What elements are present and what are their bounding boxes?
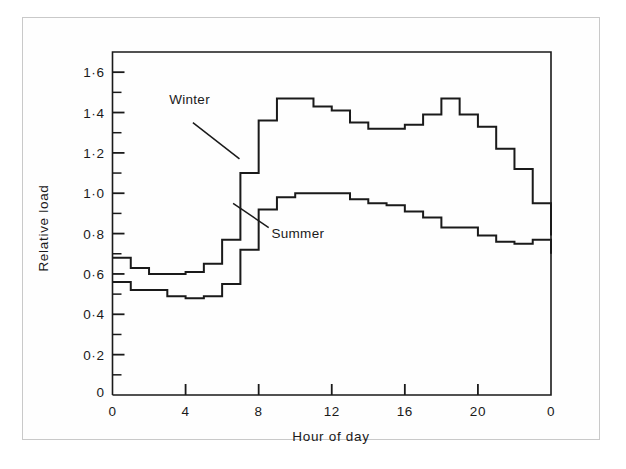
winter-series-label: Winter — [169, 92, 210, 107]
x-tick-label-3: 12 — [324, 404, 340, 419]
x-axis-major-ticks — [186, 384, 478, 395]
x-tick-label-5: 20 — [470, 404, 486, 419]
summer-leader-line — [233, 203, 269, 227]
annotation-leaders — [193, 123, 269, 228]
figure-page: 00·20·40·60·81·01·21·41·6 0481216200 Win… — [0, 0, 626, 469]
summer-series-label: Summer — [271, 226, 324, 241]
y-axis-title: Relative load — [36, 184, 51, 271]
summer-step-line — [113, 193, 552, 298]
y-tick-label-2: 0·4 — [83, 307, 104, 322]
y-tick-label-7: 1·4 — [83, 106, 104, 121]
winter-step-line — [113, 98, 552, 274]
x-tick-label-4: 16 — [397, 404, 413, 419]
y-tick-label-4: 0·8 — [83, 227, 104, 242]
x-tick-label-2: 8 — [255, 404, 263, 419]
y-tick-label-5: 1·0 — [83, 186, 104, 201]
x-tick-label-1: 4 — [182, 404, 190, 419]
x-tick-label-0: 0 — [108, 404, 116, 419]
y-tick-label-1: 0·2 — [83, 348, 104, 363]
x-axis-tick-labels: 0481216200 — [108, 404, 555, 419]
y-tick-label-6: 1·2 — [83, 146, 104, 161]
y-axis-tick-labels: 00·20·40·60·81·01·21·41·6 — [83, 65, 104, 400]
x-tick-label-6: 0 — [547, 404, 555, 419]
y-tick-label-8: 1·6 — [83, 65, 104, 80]
y-tick-label-0: 0 — [96, 385, 104, 400]
x-axis-title: Hour of day — [292, 429, 370, 444]
load-profile-chart: 00·20·40·60·81·01·21·41·6 0481216200 Win… — [0, 0, 626, 469]
y-tick-label-3: 0·6 — [83, 267, 104, 282]
series-group — [113, 98, 552, 298]
winter-leader-line — [193, 123, 240, 159]
